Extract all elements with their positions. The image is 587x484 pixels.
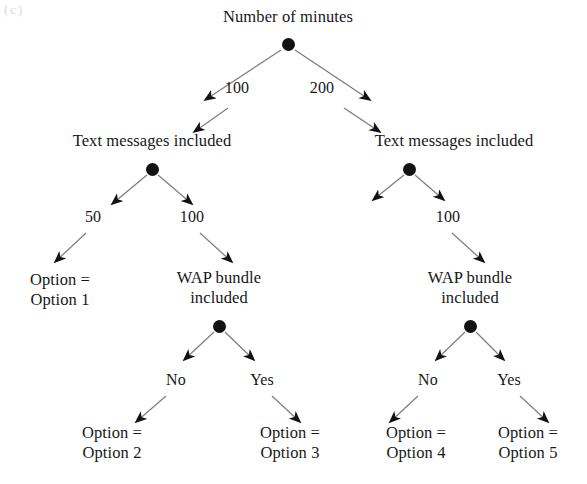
node-label-tmi-left: Text messages included <box>73 131 232 151</box>
e-wap-left-yes-lower-arrow <box>272 396 300 422</box>
node-dot-root[interactable] <box>282 38 295 51</box>
e-tmi-left-left-upper-arrow <box>112 175 147 204</box>
e-wap-right-no-upper-arrow <box>436 332 465 360</box>
node-label-wap-right: WAP bundle included <box>428 268 512 308</box>
e-root-right-lower-arrow <box>344 108 380 132</box>
edge-label-e-tmi-left-left: 50 <box>85 207 101 227</box>
e-tmi-right-right-lower-arrow <box>452 233 484 262</box>
node-label-root: Number of minutes <box>223 7 353 27</box>
e-wap-right-yes-lower-arrow <box>520 396 548 422</box>
leaf-label-leaf4: Option = Option 4 <box>386 423 446 463</box>
node-label-wap-left: WAP bundle included <box>177 268 261 308</box>
edge-label-e-wap-left-yes: Yes <box>250 370 274 390</box>
e-wap-left-no-lower-arrow <box>136 396 166 422</box>
edge-label-e-tmi-right-right: 100 <box>436 207 460 227</box>
edge-label-e-root-right: 200 <box>310 78 334 98</box>
e-tmi-left-right-upper-arrow <box>158 175 192 204</box>
node-dot-tmi-left[interactable] <box>146 163 159 176</box>
leaf-label-leaf2: Option = Option 2 <box>82 423 142 463</box>
edge-label-e-root-left: 100 <box>225 78 249 98</box>
decision-tree-diagram: (c) Number of minutesText messages inclu… <box>0 0 587 484</box>
edge-label-e-wap-right-no: No <box>418 370 438 390</box>
e-tmi-left-right-lower-arrow <box>200 233 232 262</box>
edge-label-e-wap-left-no: No <box>166 370 186 390</box>
edge-layer <box>0 0 587 484</box>
e-root-left-lower-arrow <box>194 108 228 132</box>
e-wap-left-no-upper-arrow <box>184 332 214 360</box>
edge-label-e-wap-right-yes: Yes <box>497 370 521 390</box>
leaf-label-leaf3: Option = Option 3 <box>260 423 320 463</box>
edge-label-e-tmi-left-right: 100 <box>180 207 204 227</box>
e-wap-right-yes-upper-arrow <box>476 332 504 360</box>
leaf-label-leaf1: Option = Option 1 <box>30 270 90 310</box>
e-wap-right-no-lower-arrow <box>390 396 418 422</box>
node-dot-tmi-right[interactable] <box>403 163 416 176</box>
node-label-tmi-right: Text messages included <box>375 131 534 151</box>
e-wap-left-yes-upper-arrow <box>225 332 254 360</box>
leaf-label-leaf5: Option = Option 5 <box>498 423 558 463</box>
e-tmi-right-right-upper-arrow <box>415 175 444 200</box>
e-tmi-right-left-upper-arrow <box>373 175 404 200</box>
node-dot-wap-left[interactable] <box>213 320 226 333</box>
e-tmi-left-left-lower-arrow <box>55 233 86 262</box>
edges-group <box>55 50 548 422</box>
node-dot-wap-right[interactable] <box>464 320 477 333</box>
